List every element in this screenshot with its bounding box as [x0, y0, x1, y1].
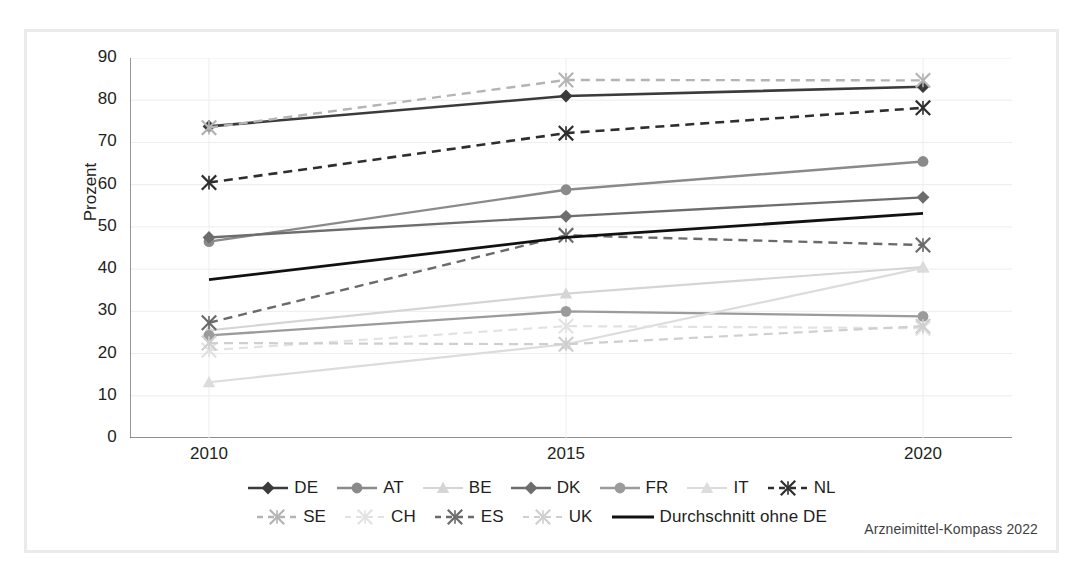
legend-swatch-es-icon	[434, 507, 476, 527]
x-axis-tick-labels: 201020152020	[130, 444, 1012, 470]
legend-swatch-durchschnitt-ohne-de-icon	[611, 507, 655, 527]
y-tick-label: 80	[77, 89, 117, 109]
legend-label: DK	[557, 478, 581, 498]
plot-area	[130, 58, 1012, 438]
data-point-marker	[916, 238, 930, 252]
legend-label: IT	[733, 478, 748, 498]
legend-label: UK	[569, 507, 593, 527]
legend-swatch-it-icon	[686, 478, 728, 498]
legend-label: SE	[303, 507, 326, 527]
data-point-marker	[561, 184, 572, 195]
legend-item-es[interactable]: ES	[425, 507, 513, 527]
legend-swatch-be-icon	[422, 478, 464, 498]
x-tick-label: 2010	[149, 444, 269, 464]
data-point-marker	[614, 482, 625, 493]
y-tick-label: 70	[77, 131, 117, 151]
y-tick-label: 60	[77, 174, 117, 194]
y-tick-label: 10	[77, 385, 117, 405]
chart-figure: Prozent 9080706050403020100 201020152020…	[24, 29, 1059, 553]
data-point-marker	[561, 306, 572, 317]
legend-item-be[interactable]: BE	[413, 478, 501, 498]
legend-item-de[interactable]: DE	[238, 478, 327, 498]
data-point-marker	[352, 482, 363, 493]
legend-swatch-fr-icon	[599, 478, 641, 498]
plot-canvas	[130, 58, 1012, 438]
legend-item-ch[interactable]: CH	[335, 507, 425, 527]
y-tick-label: 40	[77, 258, 117, 278]
legend-swatch-at-icon	[336, 478, 378, 498]
legend-swatch-de-icon	[247, 478, 289, 498]
y-tick-label: 0	[77, 427, 117, 447]
data-point-marker	[917, 191, 930, 204]
legend-label: DE	[294, 478, 318, 498]
legend-item-uk[interactable]: UK	[513, 507, 602, 527]
x-tick-label: 2015	[506, 444, 626, 464]
legend-item-se[interactable]: SE	[247, 507, 335, 527]
y-tick-label: 20	[77, 343, 117, 363]
legend-item-dk[interactable]: DK	[501, 478, 590, 498]
legend-label: NL	[814, 478, 836, 498]
legend-label: Durchschnitt ohne DE	[660, 507, 827, 527]
y-tick-label: 50	[77, 216, 117, 236]
legend-label: AT	[383, 478, 404, 498]
legend-swatch-nl-icon	[767, 478, 809, 498]
legend-swatch-uk-icon	[522, 507, 564, 527]
legend-label: ES	[481, 507, 504, 527]
x-tick-label: 2020	[863, 444, 983, 464]
y-axis-tick-labels: 9080706050403020100	[71, 58, 117, 438]
legend-item-at[interactable]: AT	[327, 478, 413, 498]
legend-label: FR	[646, 478, 669, 498]
data-point-marker	[918, 156, 929, 167]
legend-swatch-se-icon	[256, 507, 298, 527]
legend-row: DEATBEDKFRITNL	[27, 473, 1056, 502]
legend-label: BE	[469, 478, 492, 498]
legend-swatch-dk-icon	[510, 478, 552, 498]
y-tick-label: 30	[77, 300, 117, 320]
data-point-marker	[524, 481, 537, 494]
legend-item-nl[interactable]: NL	[758, 478, 845, 498]
legend-label: CH	[391, 507, 416, 527]
legend-item-fr[interactable]: FR	[590, 478, 678, 498]
legend-swatch-ch-icon	[344, 507, 386, 527]
y-tick-label: 90	[77, 47, 117, 67]
line-chart-svg	[130, 58, 1012, 438]
data-point-marker	[560, 210, 573, 223]
data-point-marker	[262, 481, 275, 494]
legend-item-it[interactable]: IT	[677, 478, 757, 498]
figure-caption: Arzneimittel-Kompass 2022	[864, 521, 1038, 537]
legend-item-durchschnitt-ohne-de[interactable]: Durchschnitt ohne DE	[602, 507, 836, 527]
